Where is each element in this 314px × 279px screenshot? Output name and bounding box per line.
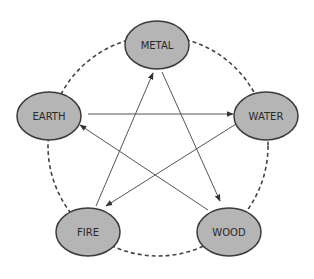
node-fire: FIRE: [56, 208, 120, 256]
arrows: [80, 72, 236, 210]
node-label-fire: FIRE: [77, 227, 99, 238]
node-earth: EARTH: [17, 92, 81, 140]
node-label-wood: WOOD: [212, 227, 246, 238]
node-label-earth: EARTH: [32, 111, 65, 122]
five-elements-diagram: METAL WATER WOOD FIRE EARTH: [0, 0, 314, 279]
arrow-metal-to-wood: [162, 72, 220, 201]
node-label-water: WATER: [249, 111, 284, 122]
node-label-metal: METAL: [141, 40, 174, 51]
node-water: WATER: [234, 92, 298, 140]
node-wood: WOOD: [197, 208, 261, 256]
node-metal: METAL: [125, 21, 189, 69]
arrow-fire-to-metal: [96, 73, 153, 206]
arrow-wood-to-earth: [80, 125, 208, 210]
